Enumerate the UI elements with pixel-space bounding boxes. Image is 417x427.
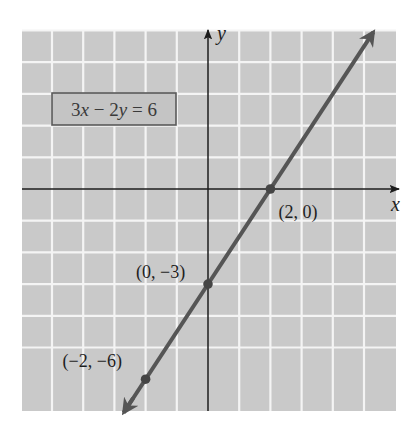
coordinate-plane: 3x − 2y = 6 x y (2, 0)(0, −3)(−2, −6) [0, 0, 417, 427]
eq-rhs: = 6 [127, 99, 157, 120]
x-axis-label: x [390, 193, 400, 215]
eq-coef-a: 3 [71, 99, 81, 120]
equation-box: 3x − 2y = 6 [52, 93, 176, 125]
equation-label: 3x − 2y = 6 [71, 99, 157, 120]
y-axis-label: y [215, 22, 226, 45]
eq-var-y: y [117, 99, 128, 120]
eq-coef-b: 2 [109, 99, 119, 120]
data-point-label: (2, 0) [278, 202, 317, 223]
eq-operator: − [89, 99, 109, 120]
data-point-marker [266, 184, 276, 194]
data-point-marker [203, 279, 213, 289]
data-point-label: (0, −3) [136, 262, 185, 283]
data-point-label: (−2, −6) [63, 351, 122, 372]
graph-figure: 3x − 2y = 6 x y (2, 0)(0, −3)(−2, −6) [0, 0, 417, 427]
data-point-marker [141, 374, 151, 384]
